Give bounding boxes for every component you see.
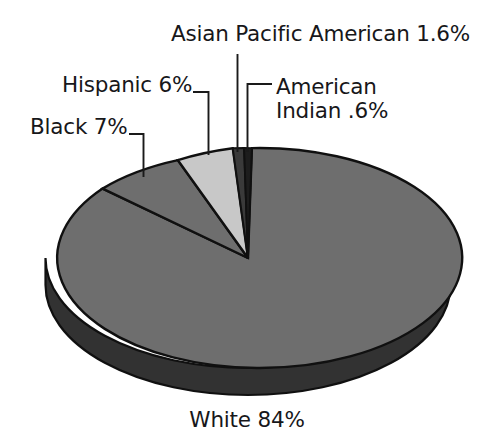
pie-top-face [57, 148, 462, 368]
label-american-indian-line1: American [276, 74, 377, 99]
label-white: White 84% [0, 408, 494, 432]
label-black: Black 7% [30, 115, 128, 139]
label-asian-pacific-american: Asian Pacific American 1.6% [171, 22, 470, 46]
pie-chart-figure: Asian Pacific American 1.6% Hispanic 6% … [0, 0, 494, 445]
leader-line-american-indian [248, 84, 273, 152]
leader-line-hispanic [193, 92, 209, 155]
label-american-indian-line2: Indian .6% [276, 98, 388, 123]
label-hispanic: Hispanic 6% [62, 73, 192, 97]
label-american-indian: AmericanIndian .6% [276, 75, 388, 123]
pie-chart-graphic [0, 0, 494, 445]
